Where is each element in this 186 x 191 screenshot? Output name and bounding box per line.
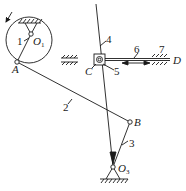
label-b: B (134, 117, 141, 128)
label-link-7: 7 (159, 44, 165, 55)
link-3 (113, 122, 130, 167)
mechanism-diagram: 1 O1 A 2 C 4 5 6 7 D B 3 O3 (0, 0, 186, 191)
joint-b (128, 120, 132, 124)
crank-disk (6, 17, 52, 63)
label-link-6: 6 (134, 44, 140, 55)
label-link-3: 3 (129, 138, 135, 149)
rotation-arrow-icon (6, 12, 12, 22)
label-link-4: 4 (106, 34, 112, 45)
ground-hatch-top (19, 19, 42, 23)
ground-hatch-bottom (101, 179, 128, 183)
link-4 (96, 4, 113, 167)
label-d: D (173, 55, 181, 66)
arrow-left-head (122, 61, 128, 65)
label-o3: O3 (118, 163, 129, 176)
label-link-2: 2 (63, 102, 69, 113)
leader-5 (103, 64, 114, 70)
guide-left-hatch (62, 55, 77, 65)
label-link-5: 5 (114, 66, 120, 77)
arrow-right-head (144, 61, 150, 65)
label-link-1: 1 (17, 36, 23, 47)
joint-o3 (111, 165, 115, 169)
mechanism-drawing (0, 0, 186, 191)
label-a: A (12, 64, 19, 75)
label-o1: O1 (33, 36, 44, 49)
slider-block-5 (94, 54, 105, 65)
leader-2 (68, 99, 72, 104)
guide-7-hatch (152, 54, 167, 65)
label-c: C (85, 66, 92, 77)
